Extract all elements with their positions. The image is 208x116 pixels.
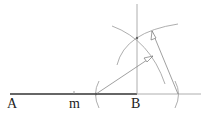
arc-large [112,26,165,84]
point-intersection [136,37,138,39]
label-m: m [69,97,80,111]
label-b: B [131,97,140,111]
radius-line-1 [96,56,153,94]
construction-svg [0,0,208,116]
point-center [95,93,97,95]
radius-line-2 [152,31,178,94]
label-a: A [7,97,17,111]
construction-diagram: A m B [0,0,208,116]
arrow-head-2 [151,31,156,40]
arc-right-small [175,81,179,108]
